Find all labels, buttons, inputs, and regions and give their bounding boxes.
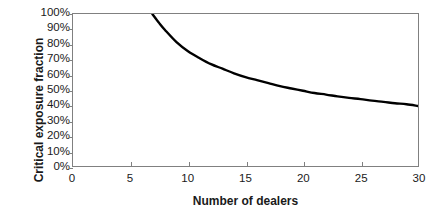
x-tick-mark bbox=[247, 162, 248, 166]
curve-series bbox=[73, 14, 418, 166]
y-tick-label: 60% bbox=[30, 69, 70, 80]
x-axis-title: Number of dealers bbox=[72, 194, 419, 208]
y-tick-label: 80% bbox=[30, 38, 70, 49]
chart-figure: Critical exposure fraction 0%10%20%30%40… bbox=[0, 0, 438, 220]
x-tick-label: 20 bbox=[283, 172, 323, 184]
y-tick-label: 20% bbox=[30, 130, 70, 141]
y-tick-label: 50% bbox=[30, 84, 70, 95]
y-tick-mark bbox=[69, 153, 73, 154]
x-tick-label: 0 bbox=[52, 172, 92, 184]
y-tick-mark bbox=[69, 168, 73, 169]
x-tick-label: 10 bbox=[168, 172, 208, 184]
y-tick-label: 100% bbox=[30, 7, 70, 18]
x-tick-label: 30 bbox=[399, 172, 438, 184]
critical-exposure-curve bbox=[152, 14, 418, 106]
x-tick-label: 25 bbox=[341, 172, 381, 184]
x-axis-tick-labels: 051015202530 bbox=[0, 172, 438, 188]
y-tick-mark bbox=[69, 91, 73, 92]
y-tick-label: 0% bbox=[30, 161, 70, 172]
y-tick-label: 70% bbox=[30, 53, 70, 64]
y-tick-mark bbox=[69, 45, 73, 46]
x-tick-label: 5 bbox=[110, 172, 150, 184]
x-tick-label: 15 bbox=[226, 172, 266, 184]
y-tick-mark bbox=[69, 60, 73, 61]
x-tick-mark bbox=[304, 162, 305, 166]
y-tick-mark bbox=[69, 76, 73, 77]
plot-area bbox=[72, 13, 419, 167]
y-tick-mark bbox=[69, 122, 73, 123]
y-tick-label: 40% bbox=[30, 99, 70, 110]
y-tick-mark bbox=[69, 29, 73, 30]
x-tick-mark bbox=[131, 162, 132, 166]
y-tick-label: 90% bbox=[30, 22, 70, 33]
y-tick-mark bbox=[69, 106, 73, 107]
y-tick-mark bbox=[69, 137, 73, 138]
y-tick-label: 10% bbox=[30, 146, 70, 157]
y-tick-mark bbox=[69, 14, 73, 15]
x-tick-mark bbox=[362, 162, 363, 166]
y-tick-label: 30% bbox=[30, 115, 70, 126]
x-tick-mark bbox=[189, 162, 190, 166]
